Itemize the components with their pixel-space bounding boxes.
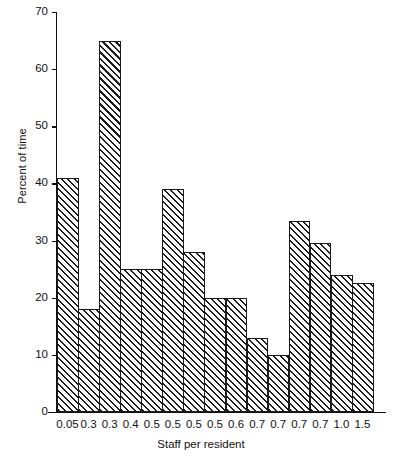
y-axis-tick-label: 60 [20, 63, 48, 75]
bar [204, 298, 226, 412]
y-axis-tick-mark [52, 183, 57, 184]
bar [331, 275, 353, 412]
y-axis-tick-mark [52, 412, 57, 413]
bar [310, 243, 332, 412]
plot-area [57, 12, 373, 412]
bar [120, 269, 142, 412]
y-axis-tick-label: 30 [20, 235, 48, 247]
bar [99, 41, 121, 412]
y-axis-tick-label: 10 [20, 349, 48, 361]
bar [183, 252, 205, 412]
y-axis-tick-mark [52, 241, 57, 242]
bar [226, 298, 248, 412]
bar [268, 355, 290, 412]
y-axis-tick-label: 40 [20, 177, 48, 189]
x-axis-title: Staff per resident [0, 438, 402, 451]
bar [289, 221, 311, 412]
y-axis-tick-label: 50 [20, 120, 48, 132]
bar [247, 338, 269, 412]
y-axis-tick-label: 0 [20, 406, 48, 418]
histogram-chart: Percent of time 010203040506070 0.050.30… [0, 0, 402, 461]
bar [162, 189, 184, 412]
bar [352, 283, 374, 412]
x-axis-tick-label: 1.5 [346, 418, 379, 430]
y-axis-tick-label: 20 [20, 292, 48, 304]
y-axis-tick-mark [52, 12, 57, 13]
y-axis-tick-mark [52, 298, 57, 299]
y-axis-tick-labels: 010203040506070 [18, 0, 48, 461]
y-axis-tick-mark [52, 69, 57, 70]
x-axis-line [48, 412, 386, 413]
bar [141, 269, 163, 412]
x-axis-tick-labels: 0.050.30.30.40.50.50.50.50.60.70.70.70.7… [57, 415, 373, 435]
y-axis-tick-mark [52, 126, 57, 127]
y-axis-tick-mark [52, 355, 57, 356]
bar [57, 178, 79, 412]
bar [78, 309, 100, 412]
y-axis-tick-label: 70 [20, 6, 48, 18]
